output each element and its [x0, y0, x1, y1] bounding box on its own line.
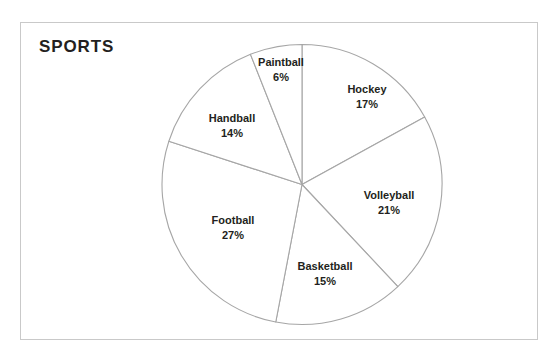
pie-label-value: 14%	[209, 126, 255, 141]
pie-label-name: Basketball	[297, 259, 352, 274]
pie-label-handball: Handball14%	[209, 111, 255, 141]
pie-label-name: Hockey	[347, 82, 386, 97]
pie-label-value: 17%	[347, 97, 386, 112]
pie-label-volleyball: Volleyball21%	[364, 188, 415, 218]
pie-label-name: Volleyball	[364, 188, 415, 203]
pie-label-football: Football27%	[212, 213, 255, 243]
pie-label-basketball: Basketball15%	[297, 259, 352, 289]
pie-label-name: Football	[212, 213, 255, 228]
pie-label-paintball: Paintball6%	[258, 55, 304, 85]
pie-label-value: 6%	[258, 70, 304, 85]
pie-label-name: Paintball	[258, 55, 304, 70]
pie-label-value: 15%	[297, 274, 352, 289]
page-title: SPORTS	[39, 37, 114, 57]
pie-label-value: 27%	[212, 228, 255, 243]
pie-label-name: Handball	[209, 111, 255, 126]
pie-label-value: 21%	[364, 203, 415, 218]
pie-label-hockey: Hockey17%	[347, 82, 386, 112]
screenshot-canvas: SPORTS Hockey17%Volleyball21%Basketball1…	[0, 0, 560, 360]
